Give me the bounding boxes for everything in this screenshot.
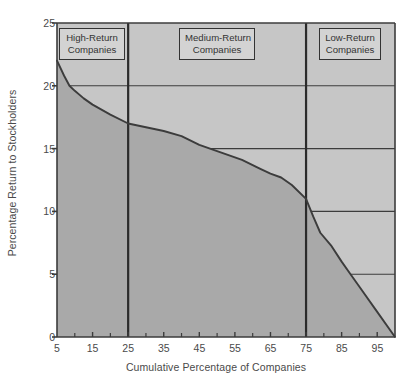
- segment-label-medium-return-line1: Medium-Return: [185, 32, 249, 44]
- chart-figure: Percentage Return to Stockholders Cumula…: [0, 0, 419, 384]
- segment-label-high-return: High-Return Companies: [59, 28, 125, 60]
- segment-label-low-return-line2: Companies: [325, 44, 375, 56]
- segment-label-medium-return-line2: Companies: [185, 44, 249, 56]
- segment-label-low-return: Low-Return Companies: [319, 28, 381, 60]
- segment-label-low-return-line1: Low-Return: [325, 32, 375, 44]
- segment-label-high-return-line1: High-Return: [65, 32, 119, 44]
- segment-label-medium-return: Medium-Return Companies: [179, 28, 255, 60]
- segment-label-high-return-line2: Companies: [65, 44, 119, 56]
